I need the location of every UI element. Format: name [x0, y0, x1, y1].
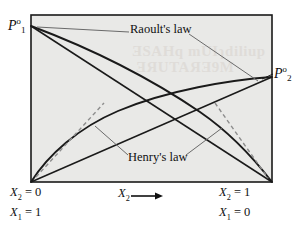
henry-law-annotation: Henry's law [128, 150, 188, 165]
right-x1-equals: = 0 [231, 205, 251, 219]
x-axis-arrow-icon [131, 192, 163, 199]
left-corner-line-1: X2 = 0 [10, 185, 41, 205]
p1-subscript: 1 [21, 25, 26, 35]
right-corner-composition-labels: X2 = 1 X1 = 0 [219, 185, 250, 224]
svg-text:ƎЯUTAЯƎ9M: ƎЯUTAЯƎ9M [136, 59, 234, 75]
left-corner-composition-labels: X2 = 0 X1 = 1 [10, 185, 41, 224]
left-corner-line-2: X1 = 1 [10, 205, 41, 225]
svg-text:ƎSAHq mUIɿdiliup: ƎSAHq mUIɿdiliup [132, 43, 266, 59]
figure-root: ƎSAHq mUIɿdiliup ƎЯUTAЯƎ9M [0, 0, 298, 228]
x-axis-subscript: 2 [126, 194, 130, 203]
p1-pure-pressure-label: Po1 [8, 16, 26, 35]
left-x2-base: X [10, 185, 18, 199]
left-x1-base: X [10, 205, 18, 219]
right-corner-line-1: X2 = 1 [219, 185, 250, 205]
raoult-law-annotation: Raoult's law [130, 22, 192, 37]
p2-pure-pressure-label: Po2 [274, 64, 292, 83]
p2-subscript: 2 [287, 73, 292, 83]
x-axis-variable-label: X2 [118, 186, 130, 203]
p2-base: P [274, 66, 283, 81]
right-corner-line-2: X1 = 0 [219, 205, 250, 225]
right-x2-base: X [219, 185, 227, 199]
left-x1-equals: = 1 [22, 205, 42, 219]
x-axis-base: X [118, 186, 126, 200]
right-x1-base: X [219, 205, 227, 219]
left-x2-equals: = 0 [22, 185, 42, 199]
p1-base: P [8, 18, 17, 33]
right-x2-equals: = 1 [231, 185, 251, 199]
